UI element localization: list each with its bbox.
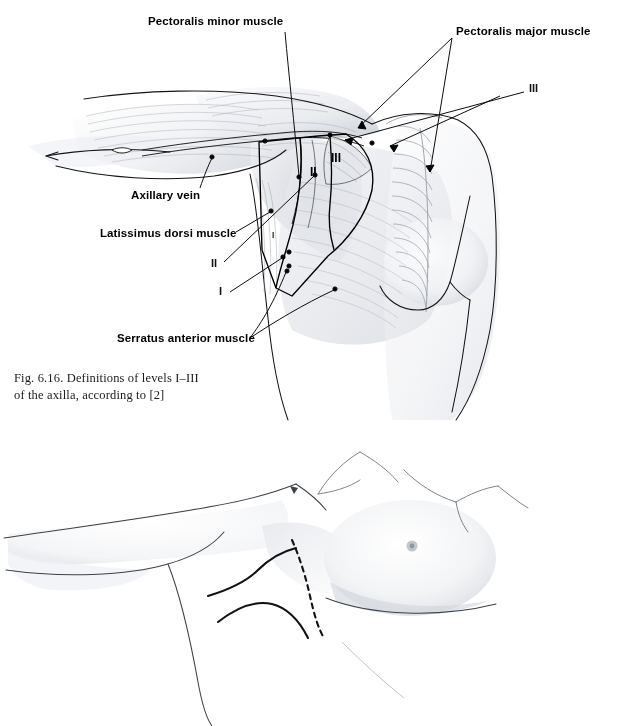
label-pectoralis-major-muscle: Pectoralis major muscle (456, 26, 591, 38)
label-latissimus-dorsi-muscle: Latissimus dorsi muscle (100, 228, 237, 240)
label-serratus-anterior-muscle: Serratus anterior muscle (117, 333, 255, 345)
level-tag-I-leader: I (219, 286, 222, 297)
label-axillary-vein: Axillary vein (131, 190, 200, 202)
anatomy-shading-2 (8, 500, 496, 616)
label-pectoralis-minor-muscle: Pectoralis minor muscle (148, 16, 283, 28)
figure-6-16-caption: Fig. 6.16. Definitions of levels I–III o… (14, 370, 274, 404)
figure-6-16: Pectoralis minor muscle Pectoralis major… (0, 0, 617, 430)
figure-6-17-illustration (0, 430, 617, 726)
level-tag-I-inner: I (272, 231, 274, 240)
level-tag-II-inner: II (310, 166, 317, 178)
figure-6-17: Fig. 6.17. Axillary dissection (differen… (0, 430, 617, 726)
level-tag-III-inner: III (331, 152, 341, 164)
level-tag-II-leader: II (211, 258, 217, 269)
incision-solid-lower (218, 603, 308, 638)
figure-6-16-illustration (0, 0, 617, 430)
trailing-contour (342, 642, 404, 698)
level-tag-III-leader: III (529, 83, 538, 94)
page-root: Pectoralis minor muscle Pectoralis major… (0, 0, 617, 726)
